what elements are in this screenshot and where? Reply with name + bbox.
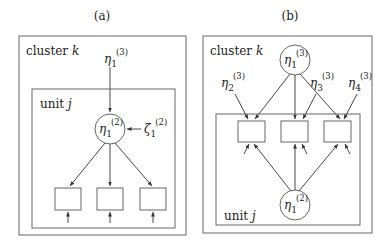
panel-a-caption: (a) <box>94 9 111 23</box>
indicator-box-3-b <box>324 121 351 142</box>
latent-eta2-3-b: η2(3) <box>221 71 245 93</box>
indicator-box-3-a <box>140 188 166 210</box>
panel-a: (a) cluster k η1(3) unit j η1(2) ζ1(2) <box>19 9 186 235</box>
indicator-box-2-a <box>97 188 123 210</box>
loading-3-a <box>115 143 152 186</box>
indicator-box-1-a <box>55 188 81 210</box>
disturbance-zeta1-2-a: ζ1(2) <box>144 117 167 139</box>
error-2-b <box>302 144 307 154</box>
error-1-b <box>244 144 249 154</box>
loading-eta1-2-to-1-b <box>254 144 291 191</box>
panel-b-caption: (b) <box>281 9 298 23</box>
unit-label-a: unit j <box>40 97 72 111</box>
cluster-label-a: cluster k <box>26 44 79 58</box>
loading-eta1-3-to-3-b <box>300 74 340 119</box>
loading-1-a <box>70 143 105 186</box>
latent-eta1-3-a: η1(3) <box>104 47 128 69</box>
loading-eta4-3-b <box>344 94 357 119</box>
loading-eta2-3-b <box>235 94 248 119</box>
latent-eta1-3-b-label: η1(3) <box>284 48 308 70</box>
unit-label-b: unit j <box>224 209 256 223</box>
latent-eta1-2-b-label: η1(2) <box>284 193 308 215</box>
loading-eta3-3-b <box>303 94 316 119</box>
indicator-box-2-b <box>281 121 308 142</box>
loading-eta1-3-to-1-b <box>255 74 290 119</box>
panel-b: (b) cluster k η1(3) η2(3) η3(3) η4(3) un… <box>203 9 372 233</box>
error-3-b <box>345 144 350 154</box>
loading-eta1-2-to-3-b <box>299 144 338 191</box>
latent-eta4-3-b: η4(3) <box>348 71 372 93</box>
diagram-canvas: (a) cluster k η1(3) unit j η1(2) ζ1(2) (… <box>0 0 387 248</box>
cluster-label-b: cluster k <box>210 44 263 58</box>
latent-eta1-2-a-label: η1(2) <box>99 117 123 139</box>
indicator-box-1-b <box>238 121 265 142</box>
